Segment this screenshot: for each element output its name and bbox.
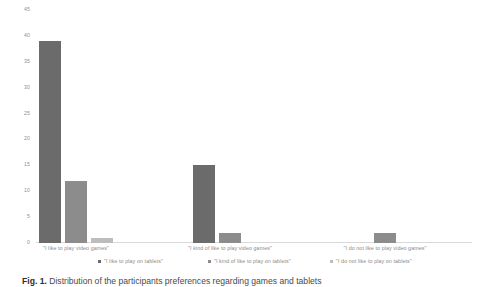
legend-item: "I do not like to play on tablets" (330, 259, 412, 264)
legend: "I like to play on tablets""I kind of li… (0, 259, 480, 271)
x-axis-label: "I do not like to play video games" (344, 246, 427, 251)
y-tick-label: 25 (24, 111, 30, 116)
x-axis-label: "I kind of like to play video games" (188, 246, 272, 251)
caption-prefix: Fig. 1. (22, 276, 47, 286)
legend-label: "I kind of like to play on tablets" (214, 259, 291, 264)
bar-group (193, 10, 267, 243)
y-tick-label: 10 (24, 189, 30, 194)
legend-item: "I kind of like to play on tablets" (208, 259, 291, 264)
legend-swatch (98, 260, 101, 263)
bar (219, 233, 241, 243)
bar (374, 233, 396, 243)
y-tick-label: 35 (24, 59, 30, 64)
bar (65, 181, 87, 243)
legend-label: "I like to play on tablets" (104, 259, 163, 264)
legend-swatch (208, 260, 211, 263)
bar (39, 41, 61, 243)
y-tick-label: 0 (27, 240, 30, 245)
y-tick-label: 40 (24, 33, 30, 38)
x-axis-label: "I like to play video games" (43, 246, 109, 251)
figure-caption: Fig. 1. Distribution of the participants… (22, 276, 472, 287)
y-tick-label: 5 (27, 215, 30, 220)
y-tick-label: 20 (24, 137, 30, 142)
bar (91, 238, 113, 243)
legend-item: "I like to play on tablets" (98, 259, 163, 264)
bar (193, 165, 215, 243)
y-tick-label: 15 (24, 163, 30, 168)
y-tick-label: 45 (24, 7, 30, 12)
bar-layer (36, 10, 472, 243)
plot-area: 0 5 10 15 20 25 30 35 40 45 (36, 10, 472, 243)
legend-swatch (330, 260, 333, 263)
bar-group (348, 10, 422, 243)
y-tick-label: 30 (24, 85, 30, 90)
legend-label: "I do not like to play on tablets" (336, 259, 412, 264)
figure: 0 5 10 15 20 25 30 35 40 45 "I like to p… (0, 0, 480, 287)
caption-text: Distribution of the participants prefere… (49, 276, 321, 286)
bar-group (39, 10, 113, 243)
